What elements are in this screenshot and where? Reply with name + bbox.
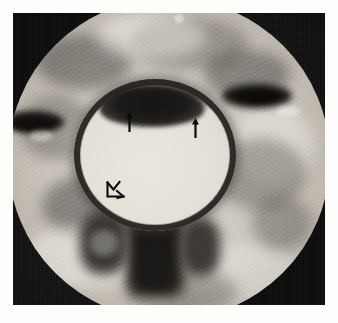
arrow-up-icon-left xyxy=(125,111,134,133)
figure-page xyxy=(0,0,338,323)
film-frame xyxy=(13,13,325,305)
field-of-view-clip xyxy=(13,13,325,305)
arrow-up-icon-right xyxy=(191,117,200,139)
open-arrowhead-icon xyxy=(106,179,128,200)
image-noise-overlay xyxy=(13,13,325,305)
scan-field-of-view xyxy=(13,13,325,305)
